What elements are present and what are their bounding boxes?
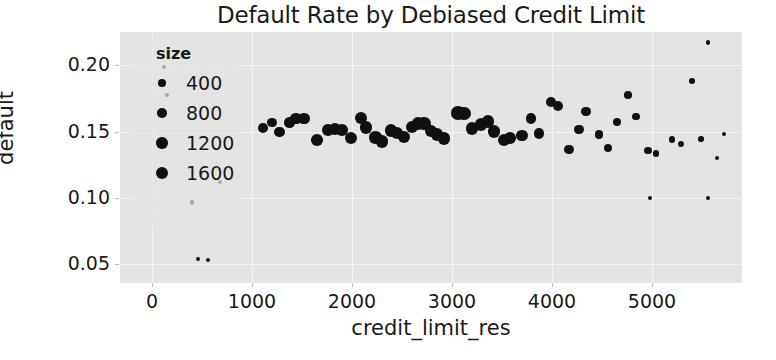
scatter-point bbox=[196, 257, 201, 262]
scatter-point bbox=[624, 91, 632, 99]
scatter-point bbox=[595, 130, 604, 139]
scatter-point bbox=[689, 78, 694, 83]
scatter-point bbox=[457, 107, 470, 120]
x-tick-mark bbox=[552, 283, 553, 287]
legend-marker bbox=[157, 108, 167, 118]
scatter-point bbox=[504, 132, 516, 144]
legend-marker bbox=[158, 79, 165, 86]
scatter-point bbox=[206, 258, 210, 262]
y-tick-mark bbox=[115, 264, 119, 265]
gridline-vertical bbox=[452, 32, 453, 283]
y-tick-label: 0.20 bbox=[68, 53, 110, 75]
gridline-vertical bbox=[552, 32, 553, 283]
scatter-point bbox=[644, 147, 651, 154]
scatter-point bbox=[706, 40, 711, 45]
y-tick-label: 0.15 bbox=[68, 120, 110, 142]
scatter-point bbox=[274, 127, 284, 137]
scatter-point bbox=[604, 144, 612, 152]
scatter-point bbox=[438, 132, 451, 145]
y-axis-label: default bbox=[0, 91, 18, 165]
gridline-vertical bbox=[652, 32, 653, 283]
x-tick-label: 5000 bbox=[612, 290, 692, 312]
scatter-point bbox=[311, 134, 323, 146]
y-tick-mark bbox=[115, 132, 119, 133]
scatter-point bbox=[534, 128, 545, 139]
scatter-point bbox=[553, 101, 563, 111]
scatter-point bbox=[669, 136, 675, 142]
x-tick-mark bbox=[152, 283, 153, 287]
x-tick-label: 1000 bbox=[212, 290, 292, 312]
scatter-point bbox=[298, 113, 309, 124]
x-tick-mark bbox=[452, 283, 453, 287]
size-legend: size 40080012001600 bbox=[130, 36, 240, 228]
x-tick-mark bbox=[252, 283, 253, 287]
scatter-point bbox=[613, 118, 621, 126]
chart-title: Default Rate by Debiased Credit Limit bbox=[120, 2, 742, 28]
legend-marker bbox=[156, 167, 169, 180]
scatter-point bbox=[526, 113, 537, 124]
x-tick-label: 0 bbox=[112, 290, 192, 312]
x-tick-label: 2000 bbox=[312, 290, 392, 312]
scatter-point bbox=[345, 132, 357, 144]
legend-label: 400 bbox=[186, 72, 222, 94]
chart-figure: Default Rate by Debiased Credit Limit si… bbox=[0, 0, 776, 360]
legend-label: 1600 bbox=[186, 162, 234, 184]
scatter-point bbox=[632, 113, 640, 121]
y-tick-label: 0.10 bbox=[68, 186, 110, 208]
scatter-point bbox=[258, 123, 268, 133]
scatter-point bbox=[581, 107, 590, 116]
scatter-point bbox=[698, 136, 703, 141]
scatter-point bbox=[564, 145, 574, 155]
y-tick-label: 0.05 bbox=[68, 252, 110, 274]
legend-title: size bbox=[156, 44, 191, 63]
scatter-point bbox=[376, 135, 388, 147]
legend-label: 800 bbox=[186, 102, 222, 124]
scatter-point bbox=[653, 150, 660, 157]
scatter-point bbox=[715, 156, 720, 161]
x-axis-label: credit_limit_res bbox=[120, 316, 742, 340]
y-tick-mark bbox=[115, 65, 119, 66]
x-tick-mark bbox=[352, 283, 353, 287]
scatter-point bbox=[574, 125, 583, 134]
y-tick-mark bbox=[115, 198, 119, 199]
legend-label: 1200 bbox=[186, 132, 234, 154]
scatter-point bbox=[722, 132, 726, 136]
x-tick-label: 4000 bbox=[512, 290, 592, 312]
scatter-point bbox=[267, 118, 276, 127]
gridline-vertical bbox=[252, 32, 253, 283]
scatter-point bbox=[398, 131, 410, 143]
gridline-vertical bbox=[352, 32, 353, 283]
gridline-horizontal bbox=[120, 264, 742, 265]
legend-marker bbox=[156, 137, 167, 148]
scatter-point bbox=[678, 141, 684, 147]
scatter-point bbox=[706, 196, 711, 201]
plot-area: size 40080012001600 bbox=[120, 32, 742, 283]
scatter-point bbox=[516, 130, 527, 141]
x-tick-label: 3000 bbox=[412, 290, 492, 312]
x-tick-mark bbox=[652, 283, 653, 287]
